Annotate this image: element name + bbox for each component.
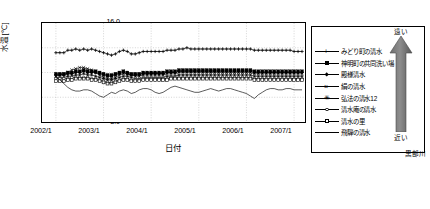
up-arrow-icon [389, 36, 413, 132]
legend-marker-diamond-icon [315, 70, 339, 79]
legend-marker-open-square-icon [315, 117, 339, 126]
legend-marker-plus-icon: + [315, 47, 339, 56]
legend-item-label: 殿様清水 [341, 71, 364, 78]
chart-figure: 水温[℃] 16.0 14.0 12.0 10.0 8.0 2002/1 200… [0, 0, 430, 209]
legend-marker-filled-square-icon [315, 59, 339, 68]
x-tick-label: 2007/1 [254, 127, 308, 135]
legend-marker-star-icon: ✳ [315, 94, 339, 103]
arrow-far-label: 遠い [383, 26, 419, 36]
data-series-layer [42, 23, 305, 122]
distance-arrow-annotation: 遠い 近い [386, 27, 416, 147]
x-tick-label: 2006/1 [206, 127, 260, 135]
x-axis-label: 日付 [41, 141, 306, 153]
legend-item-label: 絹の清水 [341, 83, 364, 90]
legend-item-label: 飛騨の清水 [341, 129, 370, 136]
arrow-near-label: 近い [383, 132, 419, 142]
x-tick-label: 2003/1 [62, 127, 116, 135]
plot-area [41, 22, 306, 123]
legend-marker-none-icon [315, 128, 339, 137]
legend-item-label: みどり町の清水 [341, 48, 382, 55]
x-tick-label: 2005/1 [158, 127, 212, 135]
legend-item-label: 清水の里 [341, 118, 364, 125]
legend-marker-cross-icon: × [315, 82, 339, 91]
legend-marker-open-circle-icon [315, 105, 339, 114]
y-axis-label: 水温[℃] [0, 0, 9, 52]
x-tick-label: 2004/1 [110, 127, 164, 135]
legend-item-label: 清水庵の清水 [341, 106, 376, 113]
x-tick-label: 2002/1 [14, 127, 68, 135]
legend-item-label: 弘法の清水12 [341, 95, 377, 102]
river-label: 黒部川 [405, 148, 430, 158]
